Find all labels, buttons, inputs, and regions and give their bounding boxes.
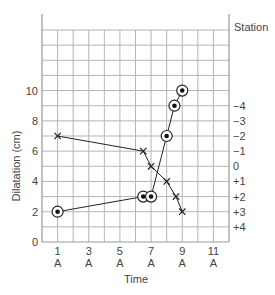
dot-marker <box>172 103 177 108</box>
station-axis-ticks: −4−3−2−10+1+2+3+4 <box>233 100 246 233</box>
station-tick-label: +4 <box>233 221 246 233</box>
station-tick-label: +2 <box>233 191 246 203</box>
x-tick-sublabel: A <box>147 257 155 269</box>
y-tick-label: 0 <box>32 236 38 248</box>
x-tick-sublabel: A <box>116 257 124 269</box>
dot-marker <box>141 194 146 199</box>
x-tick-label: 5 <box>117 245 123 257</box>
x-tick-sublabel: A <box>85 257 93 269</box>
x-tick-label: 3 <box>86 245 92 257</box>
station-tick-label: −2 <box>233 130 246 142</box>
x-tick-sublabel: A <box>54 257 62 269</box>
x-tick-label: 9 <box>179 245 185 257</box>
station-tick-label: −3 <box>233 115 246 127</box>
x-axis-title: Time <box>124 273 148 285</box>
grid-lines <box>42 30 229 242</box>
y-axis-ticks: 0246810 <box>26 85 38 248</box>
dot-marker <box>55 209 60 214</box>
x-axis-ticks: 1A3A5A7A9A11A <box>54 245 219 269</box>
station-tick-label: −1 <box>233 145 246 157</box>
station-tick-label: 0 <box>233 160 239 172</box>
dot-marker <box>149 194 154 199</box>
x-tick-label: 11 <box>208 245 219 257</box>
y-tick-label: 8 <box>32 115 38 127</box>
x-tick-label: 1 <box>55 245 61 257</box>
partograph-chart: 0246810 −4−3−2−10+1+2+3+4 1A3A5A7A9A11A … <box>0 0 275 295</box>
station-tick-label: −4 <box>233 100 246 112</box>
station-axis-title: Station <box>234 21 268 33</box>
x-tick-sublabel: A <box>210 257 218 269</box>
y-tick-label: 10 <box>26 85 38 97</box>
station-tick-label: +3 <box>233 206 246 218</box>
x-tick-sublabel: A <box>179 257 187 269</box>
dot-marker <box>180 88 185 93</box>
dot-marker <box>164 134 169 139</box>
y-tick-label: 4 <box>32 175 38 187</box>
station-tick-label: +1 <box>233 175 246 187</box>
y-tick-label: 2 <box>32 206 38 218</box>
x-tick-label: 7 <box>148 245 154 257</box>
y-axis-title: Dilatation (cm) <box>10 131 22 202</box>
y-tick-label: 6 <box>32 145 38 157</box>
